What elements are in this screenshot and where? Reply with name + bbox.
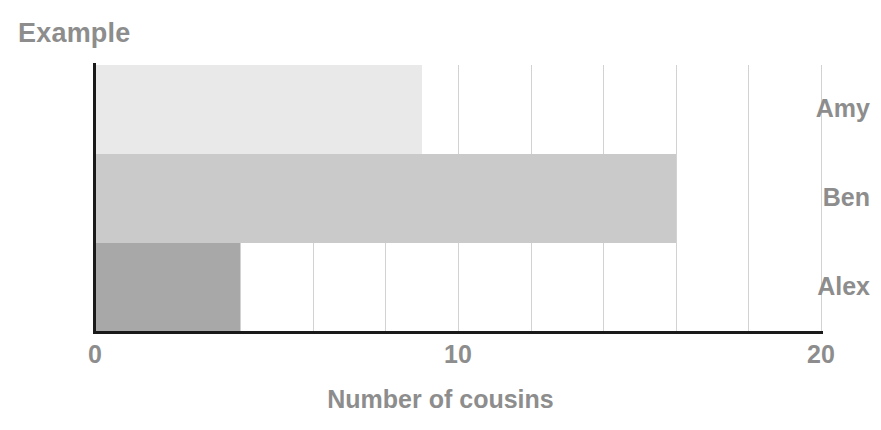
- bar-chart: Example AmyBenAlex 01020 Number of cousi…: [0, 0, 881, 430]
- bar: [95, 243, 240, 332]
- x-axis-title: Number of cousins: [0, 385, 881, 414]
- bars-group: [95, 65, 821, 332]
- bar: [95, 65, 422, 154]
- x-tick-label: 20: [807, 340, 835, 369]
- x-tick-label: 10: [444, 340, 472, 369]
- bar: [95, 154, 676, 243]
- plot-area: [95, 65, 821, 332]
- category-label: Amy: [793, 94, 881, 123]
- x-tick-label: 0: [88, 340, 102, 369]
- chart-title: Example: [18, 18, 130, 49]
- y-axis-line: [93, 63, 96, 334]
- category-label: Alex: [793, 272, 881, 301]
- x-axis-line: [93, 331, 823, 334]
- category-label: Ben: [793, 183, 881, 212]
